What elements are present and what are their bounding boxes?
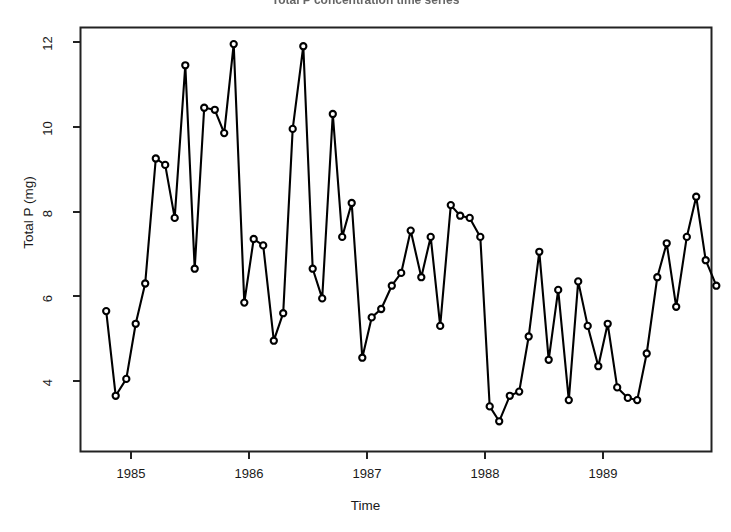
data-point bbox=[408, 228, 414, 234]
data-point bbox=[231, 41, 237, 47]
data-point bbox=[300, 43, 306, 49]
chart-figure: Total P concentration time series Total … bbox=[0, 0, 731, 532]
data-point bbox=[319, 295, 325, 301]
data-point bbox=[221, 130, 227, 136]
data-point bbox=[477, 234, 483, 240]
data-point bbox=[605, 321, 611, 327]
data-point bbox=[241, 300, 247, 306]
data-point bbox=[654, 274, 660, 280]
data-point bbox=[133, 321, 139, 327]
data-point bbox=[614, 384, 620, 390]
data-point bbox=[142, 280, 148, 286]
data-point bbox=[713, 283, 719, 289]
data-point bbox=[575, 278, 581, 284]
data-point bbox=[251, 236, 257, 242]
axis-ticks bbox=[73, 42, 603, 459]
data-point bbox=[359, 355, 365, 361]
data-point bbox=[496, 418, 502, 424]
data-point bbox=[162, 162, 168, 168]
data-point bbox=[378, 306, 384, 312]
data-point bbox=[389, 283, 395, 289]
data-point bbox=[448, 202, 454, 208]
data-point bbox=[349, 200, 355, 206]
data-point bbox=[260, 242, 266, 248]
data-point bbox=[437, 323, 443, 329]
data-point bbox=[339, 234, 345, 240]
data-point bbox=[398, 270, 404, 276]
data-point bbox=[428, 234, 434, 240]
data-point bbox=[290, 126, 296, 132]
data-point bbox=[546, 357, 552, 363]
data-point bbox=[310, 266, 316, 272]
data-point bbox=[585, 323, 591, 329]
data-point bbox=[693, 194, 699, 200]
data-point bbox=[467, 215, 473, 221]
data-point bbox=[457, 213, 463, 219]
data-point bbox=[703, 257, 709, 263]
data-point bbox=[625, 395, 631, 401]
data-point bbox=[673, 304, 679, 310]
data-point bbox=[536, 249, 542, 255]
data-point bbox=[684, 234, 690, 240]
data-point bbox=[123, 376, 129, 382]
data-point bbox=[103, 308, 109, 314]
data-point bbox=[172, 215, 178, 221]
data-point bbox=[507, 393, 513, 399]
data-point bbox=[418, 274, 424, 280]
data-point bbox=[192, 266, 198, 272]
data-point bbox=[595, 363, 601, 369]
data-point bbox=[113, 393, 119, 399]
data-point bbox=[201, 105, 207, 111]
data-point bbox=[369, 314, 375, 320]
data-point bbox=[516, 389, 522, 395]
data-point bbox=[280, 310, 286, 316]
data-point bbox=[566, 397, 572, 403]
data-point bbox=[526, 333, 532, 339]
data-point bbox=[182, 62, 188, 68]
data-point bbox=[271, 338, 277, 344]
data-point bbox=[634, 397, 640, 403]
data-point bbox=[664, 240, 670, 246]
data-point bbox=[555, 287, 561, 293]
data-point bbox=[487, 403, 493, 409]
plot-svg bbox=[0, 0, 731, 532]
data-point bbox=[153, 155, 159, 161]
data-point bbox=[644, 350, 650, 356]
data-point bbox=[212, 107, 218, 113]
data-point bbox=[330, 111, 336, 117]
data-markers bbox=[103, 41, 719, 424]
